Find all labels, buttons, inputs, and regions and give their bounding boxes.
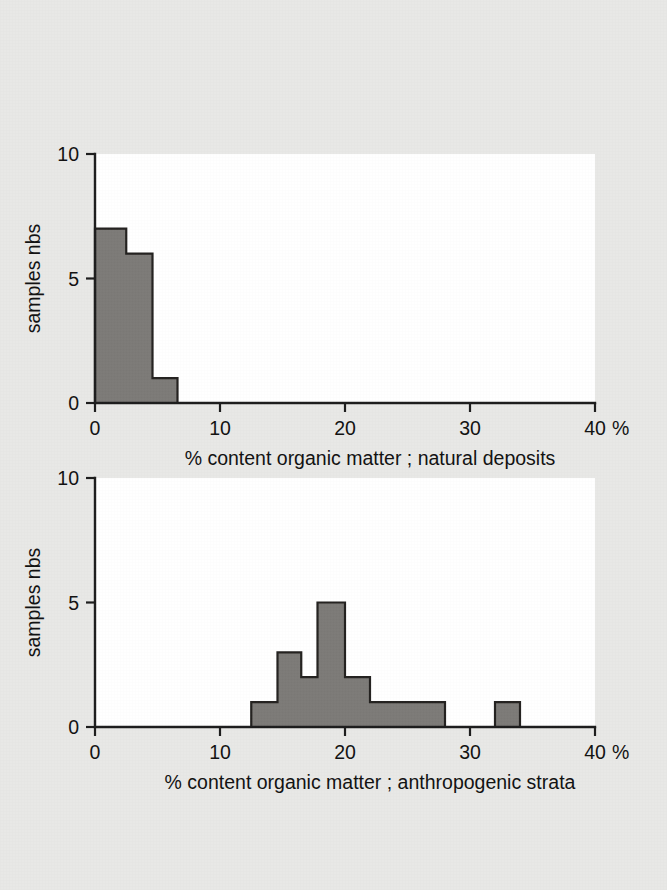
plot-area-background [95,154,595,403]
histogram-bars-group-2 [495,702,520,727]
x-tick-label: 20 [334,417,356,439]
figure-histograms: 0510010203040%% content organic matter ;… [0,0,667,890]
y-tick-label: 0 [68,392,79,414]
x-tick-label: 10 [209,741,231,763]
x-tick-label: 30 [459,417,481,439]
chart-panel-anthropogenic-strata: 0510010203040%% content organic matter ;… [0,444,667,800]
x-axis-title: % content organic matter ; anthropogenic… [165,771,576,793]
x-tick-label: 40 [584,741,606,763]
y-tick-label: 5 [68,268,79,290]
y-axis-title: samples nbs [22,548,44,658]
y-tick-label: 10 [57,467,79,489]
y-tick-label: 0 [68,716,79,738]
x-tick-label: 10 [209,417,231,439]
y-tick-label: 10 [57,143,79,165]
x-tick-label: 40 [584,417,606,439]
y-axis-title: samples nbs [22,224,44,334]
histogram-natural-deposits: 0510010203040%% content organic matter ;… [0,120,667,470]
y-tick-label: 5 [68,592,79,614]
histogram-anthropogenic-strata: 0510010203040%% content organic matter ;… [0,444,667,800]
x-axis-unit-suffix: % [612,741,629,763]
x-tick-label: 0 [90,417,101,439]
chart-panel-natural-deposits: 0510010203040%% content organic matter ;… [0,120,667,470]
x-tick-label: 0 [90,741,101,763]
x-tick-label: 20 [334,741,356,763]
x-tick-label: 30 [459,741,481,763]
x-axis-unit-suffix: % [612,417,629,439]
